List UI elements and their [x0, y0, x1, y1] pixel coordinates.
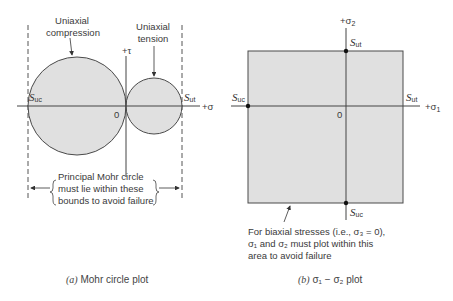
tension-label-line1: Uniaxial — [136, 21, 170, 32]
region-pointer-arrow — [284, 206, 290, 222]
sut-top-point — [344, 49, 348, 53]
region-note-line3: area to avoid failure — [248, 250, 331, 261]
origin-label-b: 0 — [337, 109, 342, 120]
sigma-axis-label: +σ — [202, 101, 214, 112]
sut-label: Sut — [184, 91, 195, 103]
region-note-line2: σ₁ and σ₂ must plot within this — [248, 238, 374, 249]
sigma1-axis-label: +σ1 — [425, 101, 440, 113]
tension-label-line2: tension — [138, 33, 169, 44]
suc-bottom-label: Suc — [350, 206, 363, 218]
suc-bottom-point — [344, 201, 348, 205]
mohr-circle-panel: Uniaxial compression Uniaxial tension +τ… — [17, 15, 214, 286]
origin-label: 0 — [114, 109, 119, 120]
right-brace — [153, 180, 159, 205]
bound-note-line3: bounds to avoid failure — [58, 195, 154, 206]
sigma2-axis-label: +σ2 — [340, 15, 355, 27]
tau-axis-label: +τ — [122, 45, 132, 56]
left-brace — [50, 180, 56, 205]
sut-top-label: Sut — [350, 36, 361, 48]
sigma-plot-panel: +σ2 +σ1 0 Sut Sut Suc Suc For biaxial st… — [231, 15, 440, 286]
bound-note-line1: Principal Mohr circle — [58, 171, 144, 182]
compression-label-line1: Uniaxial — [55, 15, 89, 26]
region-note-line1: For biaxial stresses (i.e., σ₃ = 0), — [248, 226, 385, 237]
suc-left-point — [246, 104, 250, 108]
panel-b-caption: (b) σ₁ − σ₂ plot — [298, 274, 363, 286]
suc-left-label: Suc — [232, 91, 245, 103]
panel-a-caption: (a) Mohr circle plot — [66, 274, 148, 286]
compression-pointer-arrow — [70, 38, 72, 55]
bound-note-line2: must lie within these — [58, 183, 144, 194]
sut-right-label: Sut — [406, 91, 417, 103]
failure-diagram: Uniaxial compression Uniaxial tension +τ… — [0, 0, 453, 301]
safe-region-rectangle — [248, 51, 403, 203]
compression-label-line2: compression — [46, 27, 100, 38]
